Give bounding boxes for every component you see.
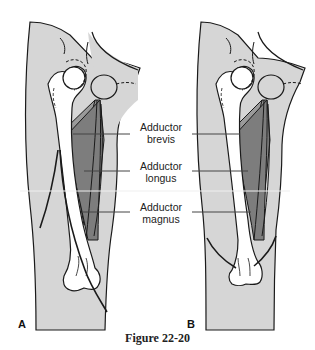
femoral-head-b — [231, 67, 253, 89]
label-line1: Adductor — [130, 121, 192, 133]
label-line1: Adductor — [130, 201, 192, 213]
panel-letter-b: B — [187, 318, 195, 330]
label-adductor-longus: Adductor longus — [130, 160, 192, 184]
panel-a-drawing — [26, 22, 141, 330]
panel-b-drawing — [197, 22, 305, 330]
obturator-foramen-a — [91, 75, 117, 99]
femoral-head-a — [63, 67, 85, 89]
label-adductor-magnus: Adductor magnus — [130, 201, 192, 225]
panel-letter-a: A — [18, 318, 26, 330]
label-line2: longus — [130, 172, 192, 184]
figure-caption: Figure 22-20 — [0, 331, 315, 346]
label-line2: magnus — [130, 213, 192, 225]
label-line2: brevis — [130, 133, 192, 145]
label-adductor-brevis: Adductor brevis — [130, 121, 192, 145]
label-line1: Adductor — [130, 160, 192, 172]
obturator-foramen-b — [258, 75, 284, 99]
